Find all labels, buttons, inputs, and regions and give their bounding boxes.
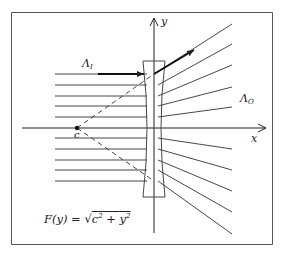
lambda-o-main: Λ xyxy=(240,92,248,105)
formula-radicand: c2 + y2 xyxy=(92,212,131,226)
outgoing-rays xyxy=(154,24,232,234)
lens-diagram: ΛI ΛO x y c F(y) = √c2 + y2 xyxy=(0,0,284,256)
outgoing-ray-arrow xyxy=(154,50,194,74)
sqrt-symbol: √ xyxy=(84,212,91,226)
figure-frame xyxy=(12,13,273,117)
label-y-axis: y xyxy=(161,16,167,27)
diagram-canvas xyxy=(0,0,284,256)
formula: F(y) = √c2 + y2 xyxy=(44,213,131,225)
label-point-c: c xyxy=(74,130,80,140)
label-x-axis: x xyxy=(251,133,257,144)
exp-y: 2 xyxy=(126,212,130,220)
label-lambda-i: ΛI xyxy=(82,58,93,69)
formula-lhs: F(y) = xyxy=(44,212,84,226)
lambda-i-main: Λ xyxy=(82,57,90,70)
lambda-i-sub: I xyxy=(90,63,93,71)
label-lambda-o: ΛO xyxy=(240,93,254,104)
lambda-o-sub: O xyxy=(248,98,254,106)
radicand-op: + xyxy=(103,212,120,226)
